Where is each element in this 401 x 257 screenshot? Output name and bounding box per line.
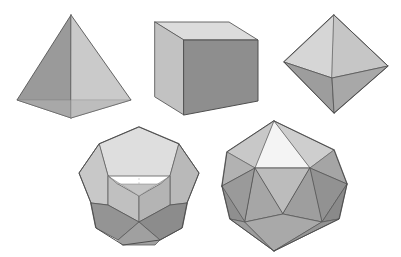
platonic-solids-figure: The Five Platonic Solids Tetrahedron Cub…	[0, 0, 401, 257]
solids-illustration	[0, 0, 401, 257]
solid-cube	[155, 22, 258, 115]
